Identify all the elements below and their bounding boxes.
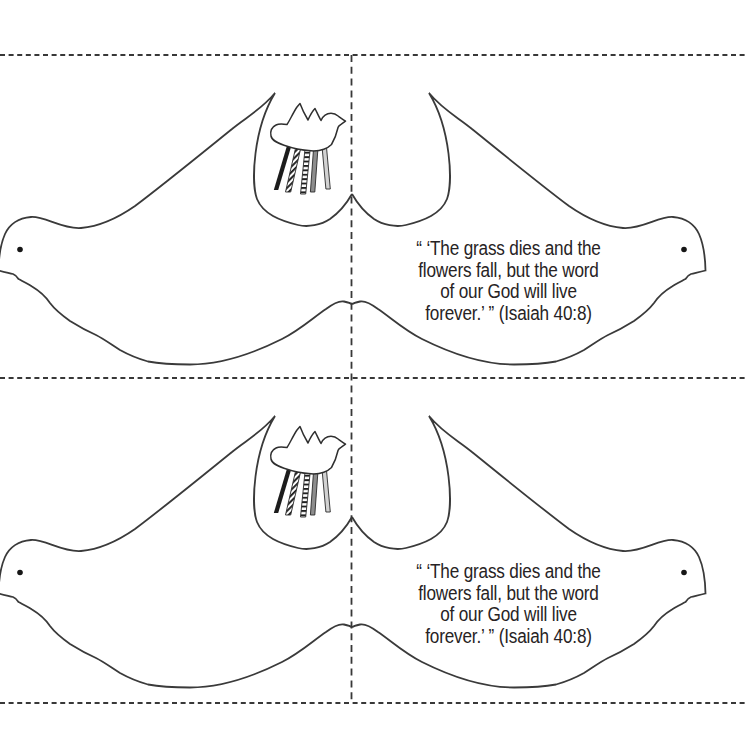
craft-sheet: “ ‘The grass dies and the flowers fall, … (0, 0, 747, 742)
verse-line: forever.’ ” (Isaiah 40:8) (398, 626, 619, 648)
verse-text-card-2: “ ‘The grass dies and the flowers fall, … (398, 561, 619, 647)
verse-line: “ ‘The grass dies and the (398, 561, 619, 583)
verse-line: of our God will live (398, 604, 619, 626)
verse-text-card-1: “ ‘The grass dies and the flowers fall, … (398, 238, 619, 324)
sheet-graphics (0, 0, 747, 742)
verse-line: flowers fall, but the word (398, 583, 619, 605)
verse-line: flowers fall, but the word (398, 260, 619, 282)
verse-line: “ ‘The grass dies and the (398, 238, 619, 260)
verse-line: forever.’ ” (Isaiah 40:8) (398, 303, 619, 325)
verse-line: of our God will live (398, 281, 619, 303)
